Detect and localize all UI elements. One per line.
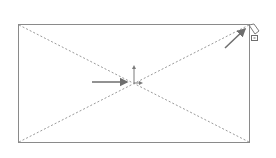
pencil-cursor-icon xyxy=(249,24,259,34)
sketch-canvas[interactable] xyxy=(0,0,276,158)
corner-pointer-arrow xyxy=(225,29,245,48)
coincident-relation-icon[interactable] xyxy=(252,36,258,41)
